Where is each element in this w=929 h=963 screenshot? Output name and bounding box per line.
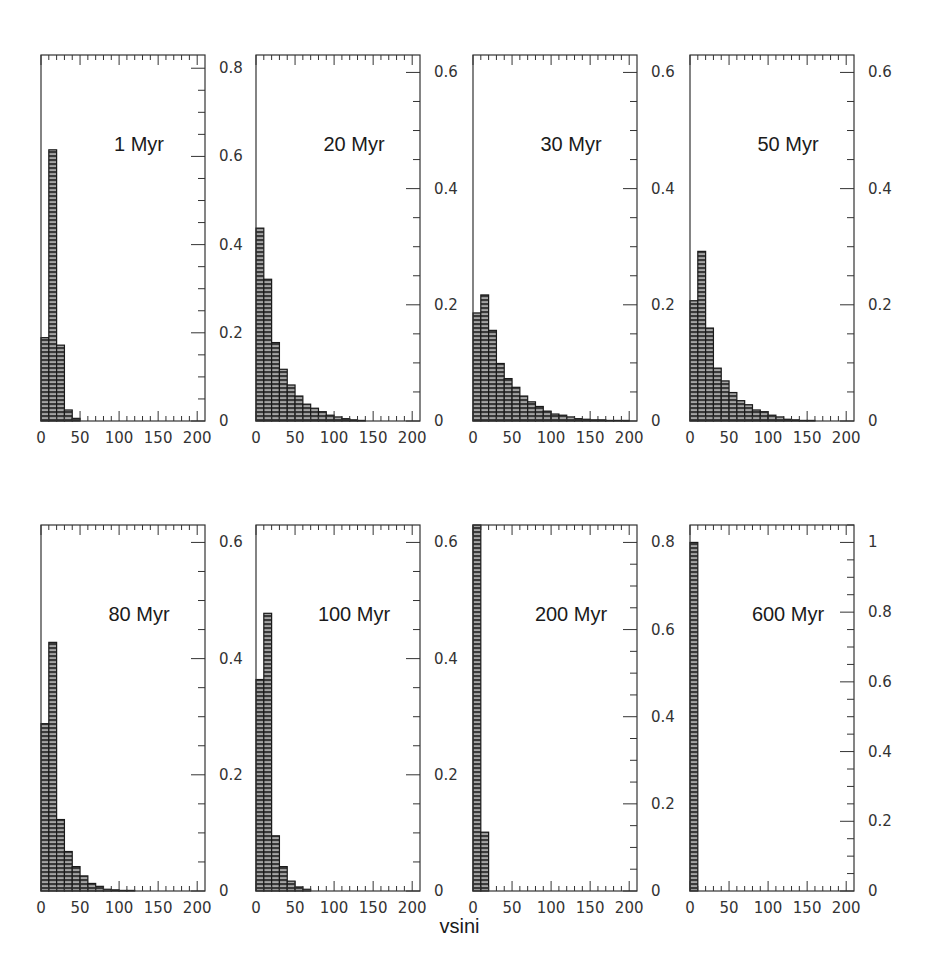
histogram-panel: 05010015020000.20.40.6100 Myr (251, 525, 458, 917)
panels-container: 05010015020000.20.40.60.81 Myr0501001502… (36, 55, 892, 917)
y-tick-label: 0 (868, 882, 878, 900)
histogram-bar (318, 412, 326, 421)
histogram-bar (279, 369, 287, 421)
histogram-bar (96, 886, 104, 891)
histogram-bar (559, 415, 567, 421)
y-tick-label: 0.4 (868, 180, 892, 198)
histogram-bar (88, 883, 96, 891)
histogram-bar (41, 724, 49, 891)
y-tick-label: 0.6 (651, 621, 675, 639)
histogram-bar (543, 411, 551, 421)
y-tick-label: 0.4 (434, 650, 458, 668)
histogram-panel: 05010015020000.20.40.60.8200 Myr (468, 525, 675, 917)
histogram-bar (713, 368, 721, 421)
histogram-bar (528, 402, 536, 421)
x-tick-label: 200 (832, 429, 861, 447)
histogram-bar (295, 887, 303, 891)
y-tick-label: 0.4 (434, 180, 458, 198)
panel-frame (473, 525, 637, 891)
histogram-bar (256, 228, 264, 421)
histogram-bar (504, 379, 512, 421)
y-tick-label: 0.4 (868, 743, 892, 761)
histogram-bar (49, 642, 57, 891)
histogram-bar (256, 680, 264, 891)
histogram-bar (690, 542, 698, 891)
panel-title: 80 Myr (108, 603, 169, 625)
panel-title: 30 Myr (540, 133, 601, 155)
histogram-panel: 05010015020000.20.40.650 Myr (685, 55, 892, 447)
y-tick-label: 0.4 (219, 236, 243, 254)
x-tick-label: 50 (503, 429, 522, 447)
y-tick-label: 0.4 (651, 180, 675, 198)
y-tick-label: 0.2 (434, 296, 458, 314)
histogram-bar (706, 328, 714, 421)
histogram-panel: 05010015020000.20.40.680 Myr (36, 525, 243, 917)
histogram-bar (264, 613, 272, 891)
histogram-bar (279, 867, 287, 891)
histogram-bar (760, 412, 768, 421)
histogram-panel: 05010015020000.20.40.620 Myr (251, 55, 458, 447)
y-tick-label: 0.8 (868, 603, 892, 621)
histogram-bar (272, 836, 280, 891)
histogram-bar (698, 251, 706, 421)
x-tick-label: 200 (615, 429, 644, 447)
histogram-bar (57, 345, 65, 421)
y-tick-label: 0 (434, 412, 444, 430)
y-tick-label: 0.2 (868, 296, 892, 314)
y-tick-label: 0.2 (219, 324, 243, 342)
y-tick-label: 0.6 (868, 673, 892, 691)
histogram-bar (737, 401, 745, 421)
histogram-bar (489, 330, 497, 421)
y-tick-label: 0 (219, 882, 229, 900)
histogram-bar (80, 876, 88, 891)
panel-title: 1 Myr (114, 133, 164, 155)
x-tick-label: 150 (144, 429, 173, 447)
y-tick-label: 0 (868, 412, 878, 430)
histogram-bar (41, 338, 49, 421)
y-tick-label: 0 (651, 412, 661, 430)
histogram-bar (295, 396, 303, 421)
histogram-bar (496, 363, 504, 421)
histogram-bar (264, 279, 272, 421)
histogram-bar (721, 381, 729, 421)
histogram-bar (326, 415, 334, 421)
panel-frame (690, 55, 854, 421)
histogram-bar (473, 525, 481, 891)
x-tick-label: 150 (359, 429, 388, 447)
panel-title: 600 Myr (752, 603, 825, 625)
histogram-bar (334, 417, 342, 421)
x-tick-label: 50 (286, 429, 305, 447)
panel-title: 50 Myr (757, 133, 818, 155)
histogram-bar (768, 415, 776, 421)
x-tick-label: 0 (468, 429, 478, 447)
histogram-bar (287, 881, 295, 891)
histogram-bar (729, 393, 737, 421)
x-tick-label: 100 (320, 429, 349, 447)
histogram-bar (690, 301, 698, 421)
histogram-bar (481, 832, 489, 891)
histogram-bar (776, 417, 784, 421)
histogram-bar (512, 387, 520, 421)
x-tick-label: 0 (36, 429, 46, 447)
histogram-grid-figure: 05010015020000.20.40.60.81 Myr0501001502… (0, 0, 929, 963)
y-tick-label: 0 (219, 412, 229, 430)
y-tick-label: 0.2 (651, 296, 675, 314)
panel-title: 100 Myr (318, 603, 391, 625)
x-tick-label: 200 (183, 429, 212, 447)
x-axis-label: vsini (0, 915, 929, 938)
y-tick-label: 0.8 (651, 533, 675, 551)
histogram-bar (272, 343, 280, 421)
y-tick-label: 0.2 (219, 766, 243, 784)
y-tick-label: 0.2 (651, 795, 675, 813)
histogram-bar (57, 820, 65, 891)
x-tick-label: 50 (720, 429, 739, 447)
histogram-bar (551, 414, 559, 421)
histogram-bar (64, 410, 72, 421)
y-tick-label: 0.6 (434, 63, 458, 81)
y-tick-label: 0.4 (219, 650, 243, 668)
panel-frame (690, 525, 854, 891)
histogram-bar (535, 406, 543, 421)
histogram-panel: 05010015020000.20.40.60.81 Myr (36, 55, 243, 447)
y-tick-label: 0.4 (651, 708, 675, 726)
x-tick-label: 150 (576, 429, 605, 447)
